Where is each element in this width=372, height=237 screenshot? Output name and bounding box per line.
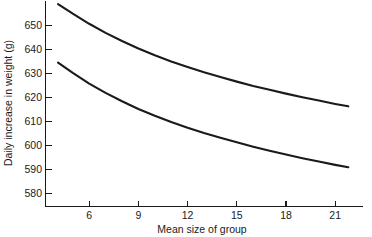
series-line-lower xyxy=(58,63,348,168)
chart-figure: 650 640 630 620 610 600 590 580 6 9 12 1… xyxy=(0,0,372,237)
x-tick-label: 18 xyxy=(280,209,292,221)
y-tick-label: 650 xyxy=(24,19,42,31)
y-tick-label: 620 xyxy=(24,91,42,103)
y-tick-label: 580 xyxy=(24,187,42,199)
y-tick-label: 590 xyxy=(24,163,42,175)
y-tick-marks xyxy=(46,26,52,194)
y-tick-label: 630 xyxy=(24,67,42,79)
data-series-group xyxy=(58,4,348,167)
y-axis-title: Daily increase in weight (g) xyxy=(2,40,14,166)
x-tick-label: 15 xyxy=(231,209,243,221)
x-axis-title: Mean size of group xyxy=(157,223,246,235)
y-tick-label: 600 xyxy=(24,139,42,151)
x-tick-label: 6 xyxy=(86,209,92,221)
x-tick-label: 12 xyxy=(182,209,194,221)
x-tick-label: 9 xyxy=(135,209,141,221)
x-tick-label: 21 xyxy=(329,209,341,221)
x-tick-marks xyxy=(89,201,335,207)
y-tick-labels: 650 640 630 620 610 600 590 580 xyxy=(24,19,42,199)
x-tick-labels: 6 9 12 15 18 21 xyxy=(86,209,341,221)
line-chart: 650 640 630 620 610 600 590 580 6 9 12 1… xyxy=(0,0,372,237)
y-tick-label: 610 xyxy=(24,115,42,127)
y-tick-label: 640 xyxy=(24,43,42,55)
